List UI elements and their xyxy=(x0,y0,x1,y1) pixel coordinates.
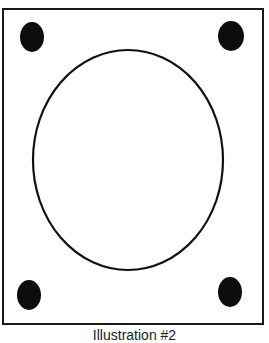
figure-caption: Illustration #2 xyxy=(0,327,269,343)
corner-dot-top-left xyxy=(20,22,44,52)
corner-dot-bottom-right xyxy=(218,277,242,307)
large-ellipse xyxy=(33,50,223,270)
corner-dot-top-right xyxy=(218,21,244,51)
corner-dot-bottom-left xyxy=(17,280,41,310)
